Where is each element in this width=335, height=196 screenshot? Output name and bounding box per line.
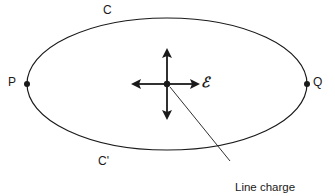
- line-charge-center-dot: [164, 81, 170, 87]
- point-label-q: Q: [313, 76, 322, 90]
- point-p-marker: [24, 81, 30, 87]
- caption-line-1: Line charge: [235, 181, 312, 194]
- curve-label-c-prime: C': [98, 155, 109, 169]
- curve-label-c: C: [103, 4, 112, 18]
- point-label-p: P: [8, 76, 16, 90]
- field-arrow-cross: [131, 48, 200, 120]
- line-charge-caption: Line charge normal to page: [235, 155, 312, 196]
- point-q-marker: [304, 81, 310, 87]
- electric-field-symbol-label: ℰ: [201, 75, 209, 91]
- physics-diagram-figure: C C' P Q ℰ Line charge normal to page: [0, 0, 335, 196]
